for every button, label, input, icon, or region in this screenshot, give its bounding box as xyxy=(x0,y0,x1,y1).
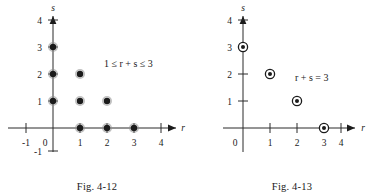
x-tick-label-4: 4 xyxy=(339,138,344,148)
data-point xyxy=(49,43,57,51)
x-tick-label-1: 1 xyxy=(268,138,273,148)
condition-label-left: 1 ≤ r + s ≤ 3 xyxy=(104,58,153,69)
x-tick-label-3: 3 xyxy=(322,138,327,148)
data-points xyxy=(238,42,328,132)
figure-4-13: 1 2 3 4 0 4 3 2 1 r s xyxy=(195,0,389,196)
x-axis-name: r xyxy=(361,123,365,133)
data-point xyxy=(76,124,84,132)
figure-caption-left: Fig. 4-12 xyxy=(0,181,194,192)
x-axis-arrow xyxy=(347,125,355,132)
plot-area-left: -1 1 2 3 4 0 4 3 2 1 -1 r s xyxy=(0,0,194,170)
y-tick-label-4: 4 xyxy=(227,16,232,26)
data-point xyxy=(265,69,274,78)
scatter-plot-left: -1 1 2 3 4 0 4 3 2 1 -1 r s xyxy=(0,0,194,170)
x-tick-label-1: 1 xyxy=(78,138,83,148)
data-point xyxy=(76,70,84,78)
scatter-plot-right: 1 2 3 4 0 4 3 2 1 r s xyxy=(195,0,389,170)
y-tick-label-1: 1 xyxy=(37,97,42,107)
data-point xyxy=(292,96,301,105)
x-tick-label--1: -1 xyxy=(22,138,30,148)
data-point xyxy=(49,70,57,78)
x-axis-name: r xyxy=(181,123,185,133)
data-point xyxy=(49,97,57,105)
condition-label-right: r + s = 3 xyxy=(295,72,329,83)
plot-area-right: 1 2 3 4 0 4 3 2 1 r s xyxy=(195,0,389,170)
data-point xyxy=(319,123,328,132)
data-point xyxy=(130,124,138,132)
y-tick-label-1: 1 xyxy=(227,97,232,107)
x-axis-arrow xyxy=(168,125,176,132)
y-tick-label-3: 3 xyxy=(227,43,232,53)
y-axis-name: s xyxy=(241,3,245,13)
origin-label: 0 xyxy=(233,138,238,148)
data-points xyxy=(49,43,138,132)
figure-caption-right: Fig. 4-13 xyxy=(195,181,389,192)
y-tick-label--1: -1 xyxy=(34,147,42,157)
x-tick-label-2: 2 xyxy=(295,138,300,148)
y-tick-label-2: 2 xyxy=(227,70,232,80)
data-point xyxy=(238,42,247,51)
y-tick-label-4: 4 xyxy=(37,16,42,26)
figure-4-12: -1 1 2 3 4 0 4 3 2 1 -1 r s xyxy=(0,0,194,196)
data-point xyxy=(103,124,111,132)
figure-sheet: -1 1 2 3 4 0 4 3 2 1 -1 r s xyxy=(0,0,389,196)
x-tick-label-4: 4 xyxy=(159,138,164,148)
y-axis-name: s xyxy=(51,3,55,13)
y-tick-label-3: 3 xyxy=(37,43,42,53)
origin-label: 0 xyxy=(43,138,48,148)
x-tick-label-3: 3 xyxy=(132,138,137,148)
data-point xyxy=(76,97,84,105)
data-point xyxy=(103,97,111,105)
y-tick-label-2: 2 xyxy=(37,70,42,80)
x-tick-label-2: 2 xyxy=(105,138,110,148)
